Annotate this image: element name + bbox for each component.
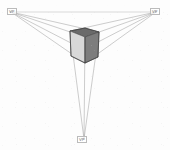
vanishing-point-label-bottom: VP xyxy=(77,136,87,143)
cube-face-left xyxy=(70,31,85,63)
perspective-construction-svg xyxy=(0,0,170,150)
vanishing-point-label-left: VP xyxy=(7,8,17,15)
vanishing-point-label-right: VP xyxy=(150,8,160,15)
cube-face-right xyxy=(85,32,99,63)
cube-shape xyxy=(70,28,99,63)
perspective-diagram: VP VP VP xyxy=(0,0,170,150)
